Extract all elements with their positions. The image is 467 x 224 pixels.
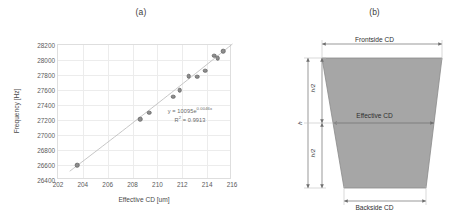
panel-a-chart: (a) Frequency [Hz] Effective CD [um] 264… xyxy=(0,0,282,224)
half-height-bottom-label: h/2 xyxy=(310,149,316,157)
y-tick-label: 28200 xyxy=(37,42,55,49)
y-tick-label: 26800 xyxy=(37,147,55,154)
y-tick-label: 27200 xyxy=(37,117,55,124)
plot-area: 2640026600268002700027200274002760027800… xyxy=(57,44,231,179)
half-height-top-label: h/2 xyxy=(310,84,316,92)
data-point xyxy=(195,74,200,79)
r-squared-value: = 0.9913 xyxy=(181,117,205,123)
effective-cd-label: Effective CD xyxy=(282,112,467,119)
y-tick-label: 27000 xyxy=(37,132,55,139)
x-tick-label: 210 xyxy=(152,181,163,188)
data-point xyxy=(203,68,208,73)
height-label: h xyxy=(297,121,303,124)
x-tick-label: 214 xyxy=(202,181,213,188)
panel-b-diagram: (b) Frontside CD Effectiv xyxy=(282,0,467,224)
x-tick-label: 206 xyxy=(102,181,113,188)
y-tick-label: 27400 xyxy=(37,102,55,109)
equation-exponent: 0.0046x xyxy=(197,106,213,111)
data-point xyxy=(138,117,143,122)
y-tick-label: 27800 xyxy=(37,72,55,79)
y-tick-label: 27600 xyxy=(37,87,55,94)
r-squared-text: R2 = 0.9913 xyxy=(150,115,230,124)
x-axis-title: Effective CD [um] xyxy=(57,196,231,203)
x-tick-label: 202 xyxy=(53,181,64,188)
backside-cd-label: Backside CD xyxy=(282,204,467,211)
data-point xyxy=(221,49,226,54)
y-tick-label: 28000 xyxy=(37,57,55,64)
frontside-cd-label: Frontside CD xyxy=(282,36,467,43)
y-axis-title: Frequency [Hz] xyxy=(13,89,20,134)
fit-annotation: y = 10095e0.0046x R2 = 0.9913 xyxy=(150,106,230,125)
data-point xyxy=(75,163,80,168)
data-point xyxy=(171,94,176,99)
data-point xyxy=(215,56,220,61)
equation-base: y = 10095e xyxy=(168,108,197,114)
equation-text: y = 10095e0.0046x xyxy=(150,106,230,115)
x-tick-label: 208 xyxy=(127,181,138,188)
x-tick-label: 212 xyxy=(177,181,188,188)
data-point xyxy=(178,88,183,93)
x-tick-label: 204 xyxy=(78,181,89,188)
data-point xyxy=(186,74,191,79)
panel-a-label: (a) xyxy=(0,7,282,17)
x-tick-label: 216 xyxy=(227,181,238,188)
y-tick-label: 26600 xyxy=(37,162,55,169)
